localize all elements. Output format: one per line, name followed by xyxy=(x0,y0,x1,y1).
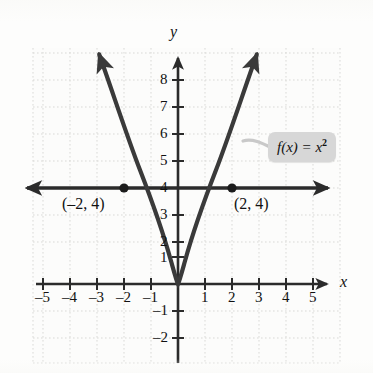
x-tick-label-neg4: –4 xyxy=(62,290,77,305)
function-callout-text: f(x) = x xyxy=(277,139,322,155)
point-marker-left xyxy=(119,183,128,192)
x-tick-label-4: 4 xyxy=(282,290,290,305)
graph-figure: y x –5 –4 –3 –2 –1 1 2 3 4 5 8 7 6 5 4 3… xyxy=(0,0,373,373)
x-tick-label-neg3: –3 xyxy=(89,290,104,305)
y-tick-label-7: 7 xyxy=(160,99,168,114)
y-tick-label-4: 4 xyxy=(160,180,168,195)
y-tick-label-5: 5 xyxy=(160,153,168,168)
coordinate-plane xyxy=(0,0,373,373)
point-marker-right xyxy=(227,183,236,192)
x-axis-label: x xyxy=(340,274,347,290)
x-tick-label-1: 1 xyxy=(201,290,209,305)
x-tick-label-3: 3 xyxy=(255,290,263,305)
function-callout-exponent: 2 xyxy=(322,137,327,148)
y-tick-label-8: 8 xyxy=(160,72,168,87)
x-tick-label-5: 5 xyxy=(309,290,317,305)
function-callout: f(x) = x2 xyxy=(268,132,336,162)
y-tick-label-6: 6 xyxy=(160,126,168,141)
y-tick-label-neg1: –1 xyxy=(153,303,168,318)
y-axis-label: y xyxy=(170,24,177,40)
point-label-left: (–2, 4) xyxy=(62,196,105,212)
x-tick-label-2: 2 xyxy=(228,290,236,305)
y-tick-label-3: 3 xyxy=(160,207,168,222)
y-tick-label-neg2: –2 xyxy=(153,330,168,345)
y-tick-label-2: 2 xyxy=(160,234,168,249)
x-tick-label-neg5: –5 xyxy=(35,290,50,305)
x-tick-label-neg2: –2 xyxy=(116,290,131,305)
point-label-right: (2, 4) xyxy=(234,196,269,212)
y-tick-label-1: 1 xyxy=(160,250,168,265)
